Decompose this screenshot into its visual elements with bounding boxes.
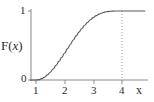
x-axis-tick-label-2: 2 [62,85,68,96]
x-axis-tick-label-4: 4 [119,85,125,96]
y-axis-tick-label-1: 1 [20,5,26,16]
x-axis-title: x [136,84,142,96]
y-axis-title-suffix: ) [18,38,22,53]
y-axis-title-prefix: F( [1,38,13,53]
y-axis-title: F(x) [1,39,23,52]
x-axis-tick-label-1: 1 [33,85,39,96]
cdf-figure: 1 0 1 2 3 4 F(x) x [0,0,154,102]
y-axis-tick-label-0: 0 [21,73,27,84]
x-axis-tick-label-3: 3 [91,85,97,96]
cdf-curve-path [30,11,145,80]
